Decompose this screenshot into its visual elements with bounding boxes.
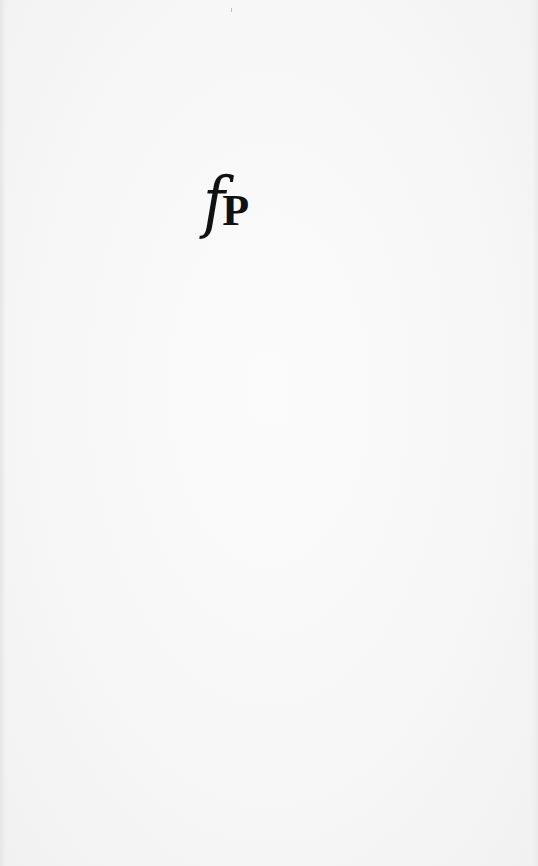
logo-bold-p: P (222, 189, 249, 233)
logo-italic-f: f (203, 168, 223, 236)
scan-artifact (231, 8, 232, 12)
publisher-logo: f P (203, 168, 249, 240)
page-edge-shadow-left (0, 0, 6, 866)
scanned-page: f P (0, 0, 538, 866)
page-edge-shadow-right (532, 0, 538, 866)
